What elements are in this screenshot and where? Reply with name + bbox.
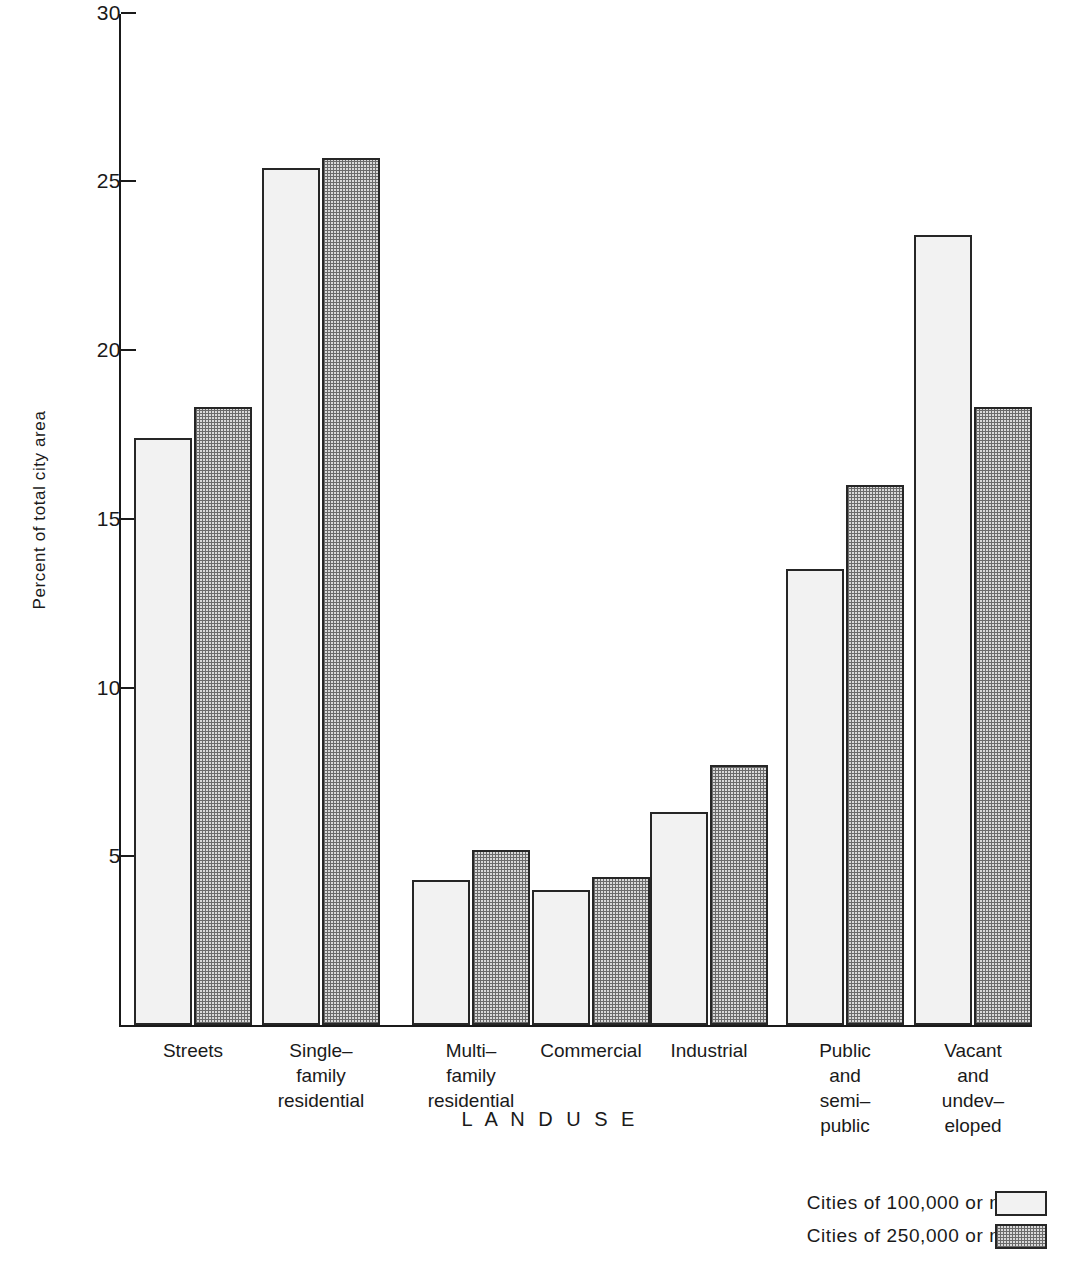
- y-axis-tick-mark: [121, 12, 136, 14]
- x-axis-category-label: Vacant and undev– eloped: [893, 1038, 1053, 1138]
- bar-cities-100k: [262, 168, 320, 1025]
- y-axis-tick-label: 25: [60, 170, 121, 191]
- bar-cities-100k: [412, 880, 470, 1025]
- y-axis-tick-label-text: 25: [81, 170, 121, 191]
- bar-cities-250k: [974, 407, 1032, 1025]
- y-axis-tick-label: 30: [60, 2, 121, 23]
- bar-cities-100k: [914, 235, 972, 1025]
- bar-cities-100k: [650, 812, 708, 1025]
- y-axis-tick-label-text: 15: [81, 508, 121, 529]
- y-axis-tick-label: 5: [60, 845, 121, 866]
- x-axis-category-label: Single– family residential: [241, 1038, 401, 1113]
- bar-cities-250k: [710, 765, 768, 1025]
- legend-swatch-icon: [995, 1224, 1047, 1249]
- bar-cities-100k: [786, 569, 844, 1025]
- bar-cities-250k: [322, 158, 380, 1025]
- bar-chart: Percent of total city area 30252015105 L…: [0, 0, 1088, 1270]
- y-axis-tick-label: 15: [60, 508, 121, 529]
- y-axis-tick-label-text: 5: [81, 845, 121, 866]
- bar-cities-100k: [532, 890, 590, 1025]
- legend-swatch-icon: [995, 1191, 1047, 1216]
- bar-cities-250k: [846, 485, 904, 1025]
- y-axis-tick-label: 10: [60, 677, 121, 698]
- bar-cities-250k: [472, 850, 530, 1026]
- y-axis-tick-mark: [121, 180, 136, 182]
- legend: Cities of 100,000 or moreCities of 250,0…: [757, 1192, 1047, 1258]
- legend-item: Cities of 250,000 or more: [757, 1225, 1047, 1247]
- y-axis-title: Percent of total city area: [30, 410, 50, 610]
- y-axis-tick-label-text: 10: [81, 677, 121, 698]
- x-axis-line: [119, 1025, 1032, 1027]
- y-axis-tick-label-text: 20: [81, 339, 121, 360]
- y-axis-tick-label: 20: [60, 339, 121, 360]
- bar-cities-100k: [134, 438, 192, 1025]
- y-axis-tick-label-text: 30: [81, 2, 121, 23]
- bar-cities-250k: [592, 877, 650, 1026]
- y-axis-tick-mark: [121, 349, 136, 351]
- bar-cities-250k: [194, 407, 252, 1025]
- legend-item: Cities of 100,000 or more: [757, 1192, 1047, 1214]
